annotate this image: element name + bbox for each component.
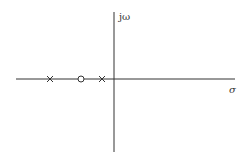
zero-marker	[78, 76, 84, 82]
real-axis-label: σ	[229, 84, 236, 95]
imaginary-axis-label: jω	[119, 11, 130, 22]
pole-zero-plot	[0, 0, 245, 155]
